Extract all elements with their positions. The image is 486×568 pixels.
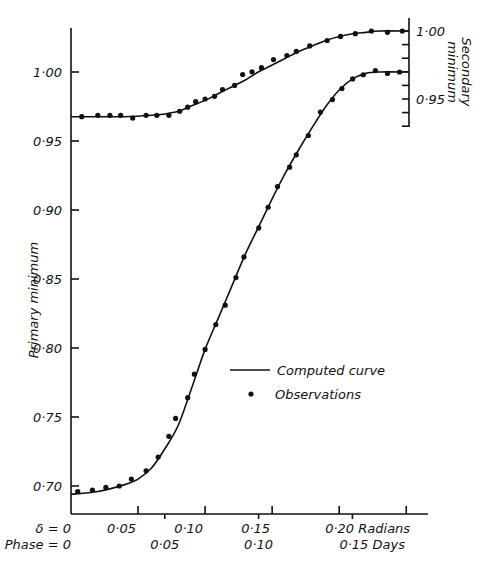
y-axis-left-title: Primary minimum <box>26 242 41 358</box>
axes: 1·000·950·900·850·800·750·701·000·95Seco… <box>5 18 474 552</box>
secondary-observation-point <box>118 113 123 118</box>
primary-observation-point <box>266 205 271 210</box>
primary-observation-point <box>192 372 197 377</box>
secondary-observation-point <box>400 28 405 33</box>
primary-observation-point <box>256 225 261 230</box>
primary-observation-point <box>318 109 323 114</box>
legend-computed-curve-label: Computed curve <box>277 363 385 378</box>
x-days-tick-label: 0·15 Days <box>339 537 405 552</box>
primary-observation-point <box>306 133 311 138</box>
y-left-tick-label: 1·00 <box>33 65 62 80</box>
primary-observation-point <box>185 395 190 400</box>
primary-observation-point <box>350 76 355 81</box>
primary-observation-point <box>75 489 80 494</box>
secondary-observation-point <box>193 99 198 104</box>
secondary-observation-point <box>177 109 182 114</box>
secondary-observation-point <box>203 96 208 101</box>
secondary-observation-point <box>95 113 100 118</box>
y-axis-right-title-line2: minimum <box>445 41 460 103</box>
primary-observation-point <box>241 254 246 259</box>
legend: Computed curve Observations <box>230 363 385 402</box>
y-right-tick-label: 1·00 <box>416 24 445 39</box>
x-days-tick-label: 0·05 <box>150 537 179 552</box>
x-days-origin-label: Phase = 0 <box>5 537 71 552</box>
primary-observation-point <box>223 303 228 308</box>
primary-observation-point <box>156 454 161 459</box>
secondary-observation-point <box>259 65 264 70</box>
primary-observation-point <box>129 477 134 482</box>
primary-observation-point <box>275 184 280 189</box>
x-radians-tick-label: 0·10 <box>174 521 203 536</box>
primary-observation-point <box>103 485 108 490</box>
secondary-observation-point <box>107 113 112 118</box>
secondary-observation-point <box>284 53 289 58</box>
primary-observation-point <box>373 68 378 73</box>
secondary-observation-point <box>307 43 312 48</box>
primary-observation-point <box>294 152 299 157</box>
x-radians-tick-label: 0·20 Radians <box>325 521 410 536</box>
y-left-tick-label: 0·70 <box>33 479 62 494</box>
x-radians-origin-label: δ = 0 <box>36 521 71 536</box>
primary-observation-point <box>330 97 335 102</box>
primary-observation-point <box>143 468 148 473</box>
secondary-observation-point <box>185 105 190 110</box>
secondary-observation-point <box>143 113 148 118</box>
y-left-tick-label: 0·95 <box>33 134 62 149</box>
secondary-observation-point <box>130 115 135 120</box>
legend-dot-icon <box>248 391 253 396</box>
secondary-observation-point <box>79 114 84 119</box>
primary-observation-point <box>166 434 171 439</box>
legend-observations-label: Observations <box>275 387 361 402</box>
primary-observation-point <box>173 416 178 421</box>
primary-observation-point <box>90 488 95 493</box>
primary-observation-point <box>339 86 344 91</box>
x-radians-tick-label: 0·05 <box>107 521 136 536</box>
secondary-observation-point <box>271 57 276 62</box>
secondary-observation-point <box>240 72 245 77</box>
x-radians-tick-label: 0·15 <box>241 521 270 536</box>
secondary-observation-point <box>249 69 254 74</box>
primary-observation-point <box>361 72 366 77</box>
x-days-tick-label: 0·10 <box>244 537 273 552</box>
primary-observation-point <box>213 322 218 327</box>
secondary-observation-point <box>232 83 237 88</box>
primary-observation-point <box>287 165 292 170</box>
y-left-tick-label: 0·90 <box>33 203 62 218</box>
primary-observation-point <box>385 71 390 76</box>
observation-points <box>75 28 405 494</box>
secondary-observation-point <box>325 38 330 43</box>
eclipse-minimum-chart: 1·000·950·900·850·800·750·701·000·95Seco… <box>0 0 486 568</box>
secondary-observation-point <box>385 30 390 35</box>
y-right-tick-label: 0·95 <box>416 92 445 107</box>
secondary-observation-point <box>353 31 358 36</box>
secondary-observation-point <box>154 113 159 118</box>
primary-observation-point <box>397 69 402 74</box>
secondary-observation-point <box>338 34 343 39</box>
computed-curves <box>71 31 409 494</box>
y-left-tick-label: 0·75 <box>33 410 62 425</box>
y-axis-right-title-line1: Secondary <box>459 38 474 107</box>
secondary-observation-point <box>220 87 225 92</box>
primary-observation-point <box>203 347 208 352</box>
secondary-computed-curve <box>71 31 409 117</box>
primary-computed-curve <box>71 72 409 494</box>
primary-observation-point <box>233 275 238 280</box>
secondary-observation-point <box>294 49 299 54</box>
secondary-observation-point <box>369 28 374 33</box>
secondary-observation-point <box>166 113 171 118</box>
primary-observation-point <box>117 483 122 488</box>
secondary-observation-point <box>212 94 217 99</box>
